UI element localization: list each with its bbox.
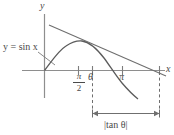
pi-over-2-denominator: 2	[72, 84, 86, 93]
measure-arrow-right	[154, 111, 160, 116]
measure-arrow-left	[93, 111, 99, 116]
y-axis-label: y	[40, 1, 44, 11]
pi-over-2-numerator: π	[72, 72, 86, 81]
measure-label-tan-theta: |tan θ|	[104, 120, 128, 130]
tick-label-pi-over-2: π 2	[72, 72, 86, 93]
figure-canvas	[0, 0, 174, 135]
curve-label-leader	[38, 52, 55, 65]
tangent-line	[49, 25, 166, 76]
sine-tangent-figure: y x y = sin x π 2 θ π |tan θ|	[0, 0, 174, 135]
tick-label-pi: π	[119, 72, 124, 82]
sine-curve-label: y = sin x	[3, 42, 38, 52]
tick-label-theta: θ	[88, 72, 93, 82]
x-axis-label: x	[166, 64, 170, 74]
